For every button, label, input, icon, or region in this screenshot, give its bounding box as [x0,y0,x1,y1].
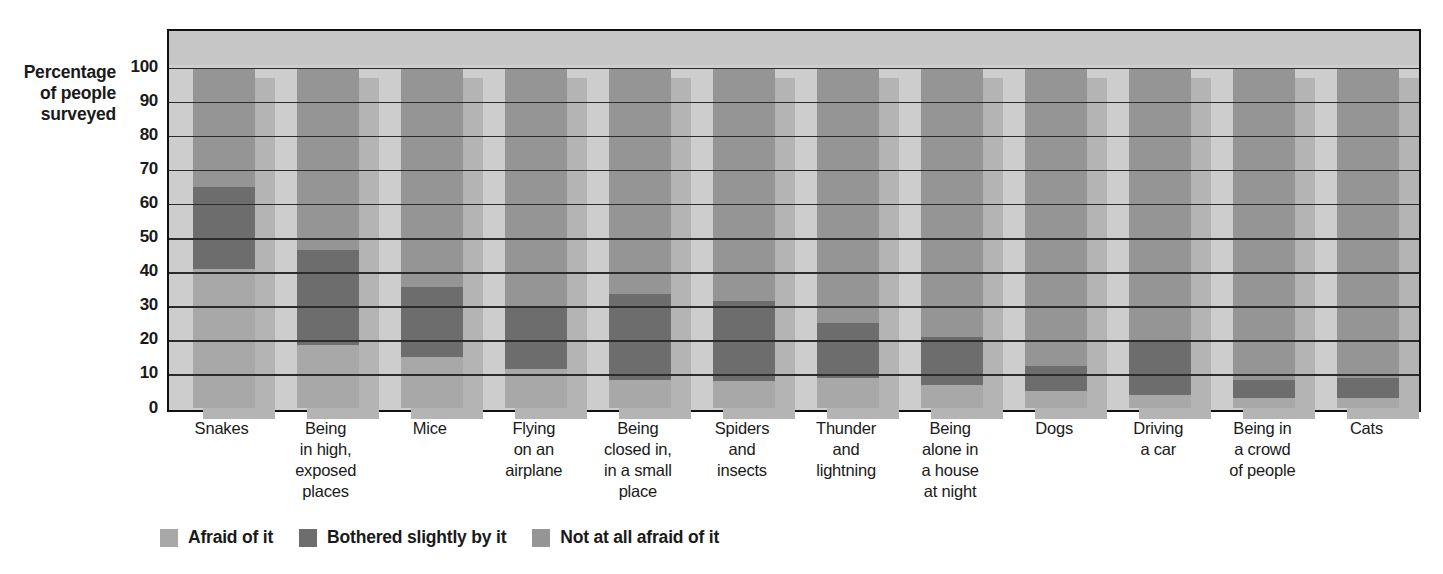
x-axis-label-line: and [794,439,898,460]
x-axis-label-line: in a small [586,460,690,481]
bar-segment-bothered-slightly-7[interactable] [921,337,983,385]
x-axis-label-line: Driving [1106,418,1210,439]
x-axis-label-line: Snakes [170,418,274,439]
bar-segment-bothered-slightly-6[interactable] [817,323,879,378]
x-axis-label-1: Beingin high,exposedplaces [274,418,378,502]
gridline-90 [169,102,1419,104]
bar-segment-afraid-4[interactable] [609,380,671,409]
y-axis-tick-0: 0 [149,398,158,415]
bar-segment-bothered-slightly-11[interactable] [1337,378,1399,398]
x-axis-label-line: a crowd [1210,439,1314,460]
x-axis-label-line: Being in [1210,418,1314,439]
y-axis-tick-90: 90 [140,91,158,108]
x-axis-label-line: Being [586,418,690,439]
y-axis-tick-60: 60 [140,193,158,210]
bar-segment-afraid-2[interactable] [401,357,463,408]
legend-swatch-icon-afraid [160,529,178,547]
bar-segment-not-at-all-afraid-3[interactable] [505,68,567,307]
bar-segment-afraid-6[interactable] [817,378,879,409]
y-axis-title-line: Percentage [8,62,116,83]
x-axis-label-0: Snakes [170,418,274,439]
x-axis-label-line: exposed [274,460,378,481]
bar-segment-bothered-slightly-2[interactable] [401,287,463,357]
bar-segment-afraid-10[interactable] [1233,398,1295,408]
bar-segment-afraid-8[interactable] [1025,391,1087,408]
x-axis-label-line: Flying [482,418,586,439]
x-axis-label-5: Spidersandinsects [690,418,794,481]
x-axis-label-8: Dogs [1002,418,1106,439]
x-axis-label-line: Being [274,418,378,439]
y-axis-tick-labels: 0102030405060708090100 [118,0,164,574]
x-axis-label-line: of people [1210,460,1314,481]
legend-item-bothered[interactable]: Bothered slightly by it [299,527,506,548]
bar-segment-bothered-slightly-1[interactable] [297,250,359,345]
gridline-100 [169,68,1419,70]
gridline-70 [169,170,1419,172]
y-axis-tick-10: 10 [140,364,158,381]
bar-segment-bothered-slightly-10[interactable] [1233,380,1295,399]
plot-area [167,29,1421,412]
x-axis-label-2: Mice [378,418,482,439]
y-axis-title-line: surveyed [8,104,116,125]
x-axis-label-3: Flyingon anairplane [482,418,586,481]
x-axis-label-line: Being [898,418,1002,439]
bar-segment-afraid-5[interactable] [713,381,775,408]
chart-page: Percentageof peoplesurveyed 010203040506… [0,0,1443,574]
bar-segment-not-at-all-afraid-2[interactable] [401,68,463,288]
gridline-10 [169,374,1419,376]
y-axis-tick-20: 20 [140,330,158,347]
x-axis-label-line: airplane [482,460,586,481]
legend-label-bothered: Bothered slightly by it [327,527,506,548]
gridline-40 [169,272,1419,274]
x-axis-category-labels: SnakesBeingin high,exposedplacesMiceFlyi… [167,418,1421,518]
x-axis-label-line: Thunder [794,418,898,439]
gridline-50 [169,238,1419,240]
bar-segment-not-at-all-afraid-10[interactable] [1233,68,1295,380]
y-axis-tick-50: 50 [140,228,158,245]
x-axis-label-line: Mice [378,418,482,439]
bar-segment-not-at-all-afraid-7[interactable] [921,68,983,337]
x-axis-label-line: in high, [274,439,378,460]
y-axis-tick-80: 80 [140,125,158,142]
bar-segment-afraid-1[interactable] [297,345,359,408]
bar-segment-not-at-all-afraid-11[interactable] [1337,68,1399,378]
x-axis-label-11: Cats [1314,418,1418,439]
bar-segment-afraid-7[interactable] [921,385,983,409]
legend-item-notatall[interactable]: Not at all afraid of it [532,527,719,548]
x-axis-label-line: place [586,481,690,502]
bar-series-container [169,31,1419,410]
y-axis-tick-100: 100 [131,57,158,74]
bar-segment-bothered-slightly-9[interactable] [1129,342,1191,395]
y-axis-tick-70: 70 [140,159,158,176]
x-axis-label-line: a house [898,460,1002,481]
bar-segment-afraid-11[interactable] [1337,398,1399,408]
legend-swatch-icon-notatall [532,529,550,547]
x-axis-label-line: at night [898,481,1002,502]
x-axis-label-line: alone in [898,439,1002,460]
x-axis-label-line: places [274,481,378,502]
bar-segment-afraid-9[interactable] [1129,395,1191,409]
x-axis-label-line: and [690,439,794,460]
x-axis-label-line: lightning [794,460,898,481]
bar-segment-bothered-slightly-0[interactable] [193,187,255,269]
x-axis-label-10: Being ina crowdof people [1210,418,1314,481]
x-axis-label-6: Thunderandlightning [794,418,898,481]
x-axis-label-4: Beingclosed in,in a smallplace [586,418,690,502]
x-axis-label-line: Cats [1314,418,1418,439]
y-axis-title: Percentageof peoplesurveyed [8,62,116,125]
x-axis-label-9: Drivinga car [1106,418,1210,460]
x-axis-label-line: Spiders [690,418,794,439]
legend-item-afraid[interactable]: Afraid of it [160,527,273,548]
bar-segment-afraid-0[interactable] [193,269,255,409]
bar-segment-not-at-all-afraid-6[interactable] [817,68,879,324]
gridline-60 [169,204,1419,206]
legend-swatch-icon-bothered [299,529,317,547]
legend: Afraid of itBothered slightly by itNot a… [160,527,745,548]
bar-segment-not-at-all-afraid-1[interactable] [297,68,359,250]
bar-segment-bothered-slightly-8[interactable] [1025,366,1087,392]
bar-segment-not-at-all-afraid-8[interactable] [1025,68,1087,366]
legend-label-afraid: Afraid of it [188,527,273,548]
bar-segment-bothered-slightly-3[interactable] [505,306,567,369]
gridline-30 [169,306,1419,308]
x-axis-label-line: Dogs [1002,418,1106,439]
